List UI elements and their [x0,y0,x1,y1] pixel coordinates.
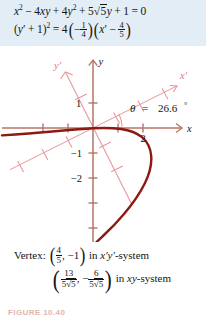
vertex-x-prime-fraction: 45 [56,246,63,266]
vertex-comma-1: , [62,249,65,261]
vertex-line-xy: (135√5, −65√5) in xy-system [52,268,171,291]
svg-text:°: ° [184,101,187,110]
tick-label-x-2: 2 [140,133,145,144]
tick-label-y-1: 1 [76,98,81,109]
vertex-system-2: xy-system [127,272,171,284]
parabola-curve [2,128,151,242]
svg-text:θ: θ [130,102,136,114]
svg-text:=: = [142,102,148,114]
tick-label-y-neg1: −1 [71,148,82,159]
equation-line-1: x2−4xy+4y2+5√5y+1=0 [14,3,146,17]
x-prime-axis-label: x′ [179,70,188,81]
fraction-four-fifths: 45 [118,21,124,40]
equation-line-2: (y′+1)2=4(−14)(x′−45) [14,21,131,40]
vertex-y-prime-value: −1 [68,249,80,261]
vertex-y-fraction: 65√5 [88,269,104,289]
vertex-system-1: x′y′-system [100,249,149,261]
y-axis-label: y [98,56,104,67]
principal-axes-group [2,60,182,242]
svg-text:26.6: 26.6 [158,102,178,114]
vertex-line-xy-prime: Vertex: (45, −1) in x′y′-system [14,246,149,266]
angle-arc [119,114,122,128]
x-axis-label: x [186,123,192,134]
sqrt-5-icon: √5 [94,4,107,17]
tick-label-y-neg2: −2 [71,173,82,184]
y-prime-axis-label: y′ [53,60,62,71]
vertex-label: Vertex: [14,249,46,261]
vertex-in-word-2: in [116,272,125,284]
vertex-in-word-1: in [89,249,98,261]
equation-band: x2−4xy+4y2+5√5y+1=0 (y′+1)2=4(−14)(x′−45… [0,0,206,46]
y-prime-axis [65,72,131,204]
vertex-comma-2: , [77,272,80,284]
conic-graph-figure: x y x′ y′ 1 −1 −2 2 θ = 26.6 ° [0,46,206,242]
fraction-one-fourth: 14 [80,21,86,40]
figure-caption: FIGURE 10.40 [8,308,65,317]
principal-axes-arrowheads [89,60,182,133]
vertex-x-fraction: 135√5 [61,269,77,289]
rotated-axes-arrowheads [61,72,177,92]
vertex-description: Vertex: (45, −1) in x′y′-system (135√5, … [0,244,206,304]
